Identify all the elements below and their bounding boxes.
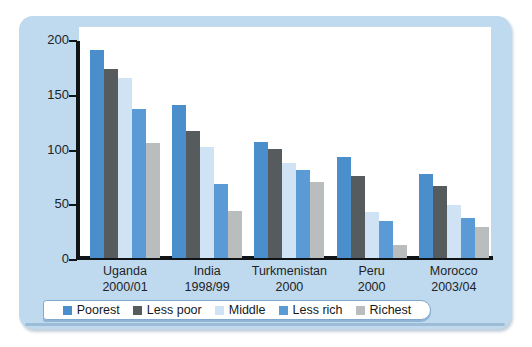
x-axis-category-label: India1998/99 bbox=[160, 263, 254, 295]
bar bbox=[296, 170, 310, 258]
bar bbox=[447, 205, 461, 258]
bar bbox=[268, 149, 282, 259]
legend-item[interactable]: Less poor bbox=[133, 303, 202, 317]
category-year: 2000/01 bbox=[78, 279, 172, 295]
y-axis-ticks: 050100150200 bbox=[19, 16, 69, 329]
legend-item[interactable]: Richest bbox=[356, 303, 412, 317]
legend-label: Poorest bbox=[77, 303, 120, 317]
bar bbox=[186, 131, 200, 258]
legend-label: Less poor bbox=[147, 303, 202, 317]
bar bbox=[132, 109, 146, 258]
legend-label: Richest bbox=[370, 303, 412, 317]
grouped-bar-chart: 050100150200 Uganda2000/01India1998/99Tu… bbox=[19, 16, 511, 329]
legend-swatch-icon bbox=[133, 306, 142, 315]
y-tick-label: 200 bbox=[47, 33, 69, 47]
legend-swatch-icon bbox=[356, 306, 365, 315]
bar-group bbox=[337, 27, 407, 258]
bar bbox=[90, 50, 104, 258]
bar-groups bbox=[80, 27, 491, 258]
legend-swatch-icon bbox=[63, 306, 72, 315]
bar-group bbox=[90, 27, 160, 258]
y-tick-mark bbox=[69, 95, 77, 97]
x-axis-category-label: Peru2000 bbox=[325, 263, 419, 295]
y-tick-mark bbox=[69, 259, 77, 261]
y-tick-label: 100 bbox=[47, 143, 69, 157]
category-country: Uganda bbox=[78, 263, 172, 279]
category-year: 2000 bbox=[325, 279, 419, 295]
category-country: Peru bbox=[325, 263, 419, 279]
legend-label: Less rich bbox=[293, 303, 343, 317]
legend-item[interactable]: Poorest bbox=[63, 303, 120, 317]
bar bbox=[310, 182, 324, 258]
bar bbox=[200, 147, 214, 258]
y-tick-mark bbox=[69, 40, 77, 42]
y-tick-label: 150 bbox=[47, 88, 69, 102]
bar bbox=[118, 78, 132, 258]
bar bbox=[172, 105, 186, 258]
x-axis-category-label: Uganda2000/01 bbox=[78, 263, 172, 295]
bar-group bbox=[172, 27, 242, 258]
y-tick-label: 50 bbox=[55, 197, 69, 211]
bar bbox=[461, 218, 475, 259]
bar bbox=[337, 157, 351, 258]
legend-swatch-icon bbox=[279, 306, 288, 315]
chart-legend: PoorestLess poorMiddleLess richRichest bbox=[43, 300, 431, 320]
x-axis-category-label: Turkmenistan2000 bbox=[242, 263, 336, 295]
x-axis-category-label: Morocco2003/04 bbox=[407, 263, 501, 295]
bar bbox=[351, 176, 365, 258]
bar bbox=[433, 186, 447, 258]
category-year: 2000 bbox=[242, 279, 336, 295]
bar bbox=[104, 69, 118, 258]
bar bbox=[214, 184, 228, 258]
category-country: Morocco bbox=[407, 263, 501, 279]
bar bbox=[419, 174, 433, 258]
category-year: 2003/04 bbox=[407, 279, 501, 295]
category-country: Turkmenistan bbox=[242, 263, 336, 279]
bar-group bbox=[419, 27, 489, 258]
bar bbox=[254, 142, 268, 258]
legend-item[interactable]: Less rich bbox=[279, 303, 343, 317]
y-tick-mark bbox=[69, 150, 77, 152]
legend-label: Middle bbox=[229, 303, 266, 317]
bar bbox=[146, 143, 160, 258]
y-tick-label: 0 bbox=[62, 252, 69, 266]
bar bbox=[282, 163, 296, 258]
bar bbox=[365, 212, 379, 258]
x-axis-labels: Uganda2000/01India1998/99Turkmenistan200… bbox=[80, 263, 491, 303]
bar-group bbox=[254, 27, 324, 258]
bar bbox=[393, 245, 407, 258]
legend-swatch-icon bbox=[215, 306, 224, 315]
bar bbox=[379, 221, 393, 258]
y-tick-mark bbox=[69, 204, 77, 206]
category-country: India bbox=[160, 263, 254, 279]
bar bbox=[475, 227, 489, 258]
legend-item[interactable]: Middle bbox=[215, 303, 266, 317]
bar bbox=[228, 211, 242, 258]
category-year: 1998/99 bbox=[160, 279, 254, 295]
